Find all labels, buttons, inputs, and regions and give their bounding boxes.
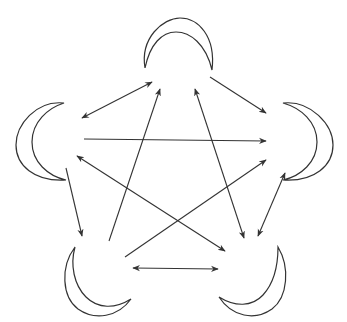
double-arrow-left-top [82,82,152,118]
crescent-moon-icon [16,103,66,180]
crescent-moon-icon [65,247,131,316]
double-arrow-right-bottom-right [258,173,285,236]
arrow-top-to-right [210,77,266,113]
nodes [16,18,333,316]
arrow-bottom-left-to-right [125,160,266,257]
arrow-left-to-right [84,139,266,141]
double-arrow-top-bottom-right [195,89,244,238]
pentagram-network-diagram [0,0,347,322]
double-arrow-bottom-left-bottom-right [133,268,218,269]
edges [66,77,285,269]
crescent-moon-icon [283,103,333,180]
crescent-moon-icon [219,247,286,316]
arrow-bottom-left-to-top [109,89,160,241]
arrow-left-to-bottom-left [66,168,82,236]
crescent-moon-icon [144,18,212,70]
